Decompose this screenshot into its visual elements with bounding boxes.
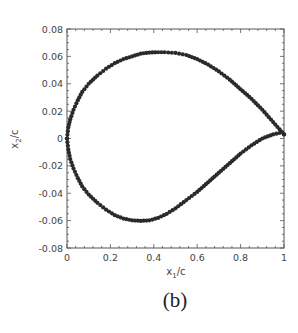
y-axis-label: x2/c	[9, 129, 23, 148]
y-tick-label: 0.02	[42, 106, 63, 117]
y-tick-label: 0.08	[42, 24, 63, 35]
x-tick-label: 0	[64, 252, 70, 263]
tick-labels: 00.20.40.60.810.080.060.040.020-0.02-0.0…	[38, 24, 287, 264]
x-tick-label: 0.8	[233, 252, 248, 263]
plot-frame	[67, 29, 284, 248]
airfoil-chart: 00.20.40.60.810.080.060.040.020-0.02-0.0…	[0, 0, 298, 333]
x-tick-label: 0.6	[190, 252, 205, 263]
y-tick-label: 0.06	[42, 51, 63, 62]
y-tick-label: -0.08	[38, 243, 63, 254]
y-tick-label: 0.04	[42, 78, 63, 89]
airfoil-points	[65, 50, 286, 223]
y-tick-label: 0	[57, 133, 63, 144]
axis-ticks	[67, 29, 284, 248]
panel-label: (b)	[163, 288, 188, 312]
y-tick-label: -0.04	[38, 188, 63, 199]
y-tick-label: -0.02	[38, 160, 63, 171]
x-tick-label: 1	[281, 252, 287, 263]
y-tick-label: -0.06	[38, 215, 63, 226]
x-tick-label: 0.4	[146, 252, 161, 263]
x-axis-label: x1/c	[166, 266, 185, 280]
x-tick-label: 0.2	[103, 252, 118, 263]
